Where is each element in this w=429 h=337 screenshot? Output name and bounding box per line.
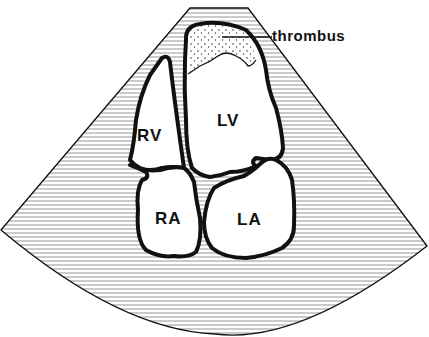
la-label: LA	[237, 210, 262, 230]
ra-label: RA	[155, 209, 182, 229]
rv-label: RV	[137, 126, 162, 146]
thrombus-label: thrombus	[272, 27, 345, 44]
echo-diagram	[0, 0, 429, 337]
lv-label: LV	[217, 111, 239, 131]
